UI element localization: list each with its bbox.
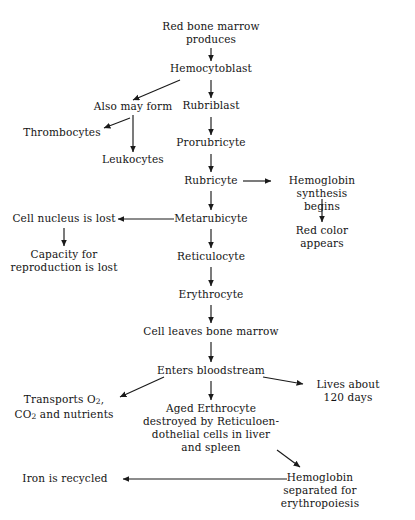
erythropoiesis-flowchart: Red bone marrow produces Hemocytoblast A… xyxy=(0,0,415,520)
edge-entersbloodstream-to-transports xyxy=(120,377,164,397)
edge-hemocytoblast-to-alsomayform xyxy=(133,80,180,100)
node-hemoglobin-synthesis: Hemoglobin synthesis begins xyxy=(276,174,369,213)
node-iron-is-recycled: Iron is recycled xyxy=(22,472,107,485)
node-hemocytoblast: Hemocytoblast xyxy=(170,62,252,75)
node-enters-bloodstream: Enters bloodstream xyxy=(157,364,265,377)
node-red-bone-marrow: Red bone marrow produces xyxy=(162,20,259,46)
node-aged-erythrocyte-destroyed: Aged Erthrocyte destroyed by Reticuloen-… xyxy=(143,402,279,454)
node-reticulocyte: Reticulocyte xyxy=(177,250,245,263)
node-cell-nucleus-lost: Cell nucleus is lost xyxy=(12,212,115,225)
node-thrombocytes: Thrombocytes xyxy=(23,126,101,139)
node-leukocytes: Leukocytes xyxy=(102,153,164,166)
node-capacity-reproduction-lost: Capacity for reproduction is lost xyxy=(10,248,117,274)
node-transports-gases: Transports O2,CO2 and nutrients xyxy=(14,393,113,423)
transports-line2-start: CO xyxy=(14,408,31,420)
node-lives-about-120-days: Lives about 120 days xyxy=(316,378,379,404)
node-red-color-appears: Red color appears xyxy=(276,224,369,250)
node-cell-leaves-bone-marrow: Cell leaves bone marrow xyxy=(143,325,278,338)
edge-agederythrocyte-to-hemoglobinseparated xyxy=(277,450,300,467)
edge-alsomayform-to-thrombocytes xyxy=(104,118,130,128)
transports-line1-end: , xyxy=(101,393,105,405)
transports-line2-end: and nutrients xyxy=(36,408,113,420)
transports-line1: Transports O xyxy=(24,393,96,405)
node-rubricyte: Rubricyte xyxy=(184,174,237,187)
node-rubriblast: Rubriblast xyxy=(182,99,239,112)
node-metarubicyte: Metarubicyte xyxy=(174,212,247,225)
node-prorubricyte: Prorubricyte xyxy=(176,136,245,149)
node-erythrocyte: Erythrocyte xyxy=(179,288,244,301)
node-also-may-form: Also may form xyxy=(94,100,173,113)
edge-entersbloodstream-to-lives120days xyxy=(263,377,303,384)
node-hemoglobin-separated: Hemoglobin separated for erythropoiesis xyxy=(273,471,368,510)
